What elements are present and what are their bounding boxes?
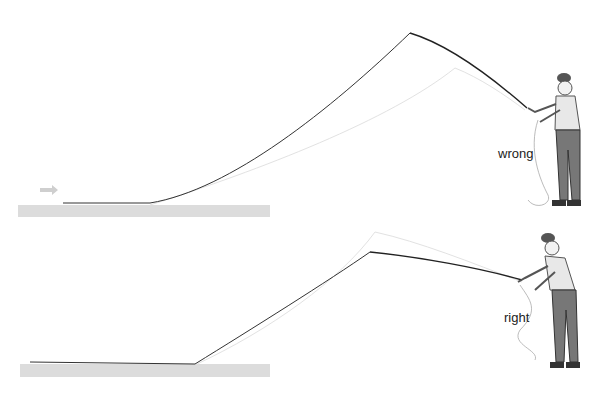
water-surface-wrong <box>18 205 270 217</box>
fly-line-wrong <box>63 33 410 203</box>
angler-right-icon <box>518 233 580 368</box>
ghost-line-right <box>195 232 522 365</box>
direction-arrow-icon <box>40 185 58 195</box>
panel-wrong <box>18 33 581 217</box>
panel-right <box>20 232 580 377</box>
rod-right <box>370 252 522 280</box>
water-surface-right <box>20 364 270 377</box>
fly-line-right <box>30 252 370 364</box>
casting-diagram <box>0 0 599 393</box>
rod-wrong <box>410 33 527 108</box>
label-wrong: wrong <box>498 146 533 161</box>
angler-wrong-icon <box>528 73 581 206</box>
ghost-line-wrong <box>150 68 525 205</box>
label-right: right <box>504 310 529 325</box>
